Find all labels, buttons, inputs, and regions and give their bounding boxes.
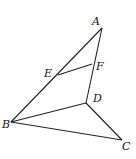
segment-dc <box>86 103 122 140</box>
label-b: B <box>1 118 10 131</box>
label-c: C <box>122 140 131 153</box>
segment-bd <box>11 103 86 122</box>
segment-ab <box>11 28 102 122</box>
label-d: D <box>92 92 102 105</box>
label-f: F <box>95 60 104 73</box>
label-a: A <box>91 15 100 28</box>
segment-bc <box>11 122 122 140</box>
label-e: E <box>43 67 52 80</box>
segment-ef <box>58 64 92 75</box>
geometry-diagram: A E F D B C <box>0 0 136 159</box>
